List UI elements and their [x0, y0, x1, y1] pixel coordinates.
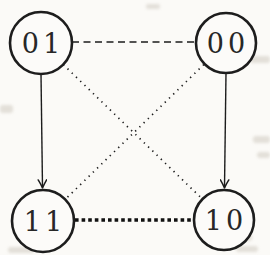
- node-00-label: 00: [207, 28, 249, 59]
- node-00: 00: [196, 13, 256, 73]
- node-10: 10: [194, 190, 254, 250]
- node-11-label: 11: [24, 206, 66, 237]
- node-01-label: 01: [22, 28, 64, 59]
- edge-01-11-arrow: [41, 74, 43, 188]
- node-01: 01: [10, 12, 72, 74]
- edge-01-10-dotted: [63, 65, 201, 199]
- edge-00-10-arrow: [225, 73, 227, 188]
- diagram-canvas: 01 00 11 10: [0, 0, 270, 255]
- state-transition-graph: 01 00 11 10: [0, 0, 270, 255]
- node-10-label: 10: [205, 205, 247, 236]
- node-11: 11: [12, 190, 74, 252]
